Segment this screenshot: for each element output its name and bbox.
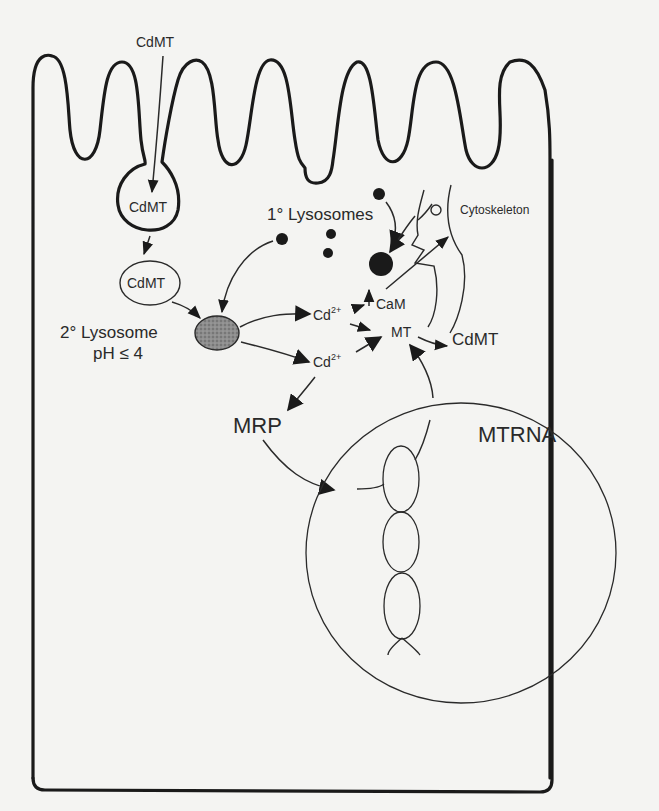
arrow-mrp-to-nucleus [263,440,334,490]
label-cdmt-endosome: CdMT [129,199,168,215]
arrow-cytoskeleton-to-lysosome [390,216,415,252]
nucleus [306,403,616,703]
label-secondary-lysosome: 2° Lysosome [60,323,158,342]
arrow-uptake [152,56,163,192]
arrow-vesicle-to-lysosome [172,302,200,318]
arrow-cd-lower-to-mt [356,337,381,352]
label-primary-lysosomes: 1° Lysosomes [267,205,373,224]
label-cdmt-cytosol: CdMT [452,330,498,349]
dna-helix-icon [357,420,430,655]
primary-lysosome-3 [323,248,333,258]
label-mrp: MRP [233,413,282,438]
label-nucleus-mtrna: MTRNA [478,422,557,447]
cytoskeleton-vesicle [431,205,441,215]
primary-lysosome-4 [373,188,385,200]
cytoskeleton-fiber-1 [412,190,437,327]
arrow-lysosome-to-cd-upper [240,314,310,327]
arrow-cd-to-cam [353,305,364,309]
arrow-primary-to-secondary [222,241,273,312]
arrow-lysosome-fusion [386,202,395,246]
label-cd2-lower: Cd2+ [313,352,341,370]
arrow-nucleus-to-mt [410,345,433,398]
arrow-cd-lower-to-mrp [288,377,315,410]
primary-lysosome-2 [326,229,336,239]
large-lysosome [369,252,393,276]
label-mt: MT [391,324,412,340]
label-cytoskeleton: Cytoskeleton [460,203,529,217]
label-cd2-upper: Cd2+ [313,305,341,323]
cell-membrane [33,55,550,778]
cell-diagram: CdMT CdMT CdMT 2° Lysosome pH ≤ 4 1° Lys… [0,0,659,811]
label-lysosome-ph: pH ≤ 4 [93,344,143,363]
label-cdmt-vesicle: CdMT [127,275,166,291]
primary-lysosome-1 [276,233,288,245]
arrow-mt-to-cdmt [418,337,447,346]
arrow-lysosome-to-cd-lower [241,342,309,362]
label-cdmt-extracellular: CdMT [136,34,175,50]
label-cam: CaM [376,296,406,312]
secondary-lysosome [195,316,239,350]
cell-membrane-base [33,160,552,792]
arrow-cd-upper-to-mt [350,324,370,330]
arrow-endosome-to-vesicle [144,236,150,254]
